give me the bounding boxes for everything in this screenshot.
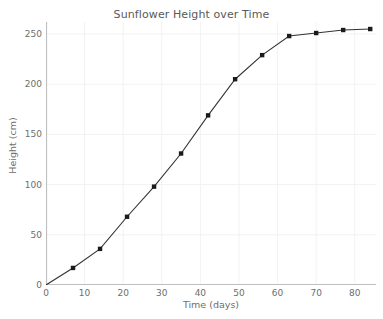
data-point-marker [287, 34, 291, 38]
x-axis-tick-label: 60 [263, 288, 293, 298]
data-point-marker [314, 31, 318, 35]
x-axis-tick-label: 30 [147, 288, 177, 298]
x-axis-tick-label: 40 [185, 288, 215, 298]
x-axis-tick-label: 70 [301, 288, 331, 298]
axis-spines [46, 22, 376, 285]
plot-area [46, 22, 376, 285]
data-point-marker [71, 266, 75, 270]
data-point-marker [206, 113, 210, 117]
x-axis-tick-label: 50 [224, 288, 254, 298]
data-point-marker [233, 77, 237, 81]
data-point-marker [341, 28, 345, 32]
plot-svg [46, 22, 376, 285]
x-axis-tick-label: 80 [340, 288, 370, 298]
x-axis-tick-label: 10 [70, 288, 100, 298]
data-point-marker [125, 215, 129, 219]
y-axis-tick-label: 200 [12, 79, 42, 89]
y-axis-label: Height (cm) [7, 101, 18, 191]
data-point-marker [152, 184, 156, 188]
data-point-marker [368, 27, 372, 31]
y-axis-tick-label: 250 [12, 29, 42, 39]
data-point-marker [260, 53, 264, 57]
x-axis-tick-label: 0 [31, 288, 61, 298]
series-line-sunflower-height [46, 29, 370, 285]
data-point-marker [179, 151, 183, 155]
chart-title: Sunflower Height over Time [0, 8, 383, 21]
grid-lines [46, 22, 376, 285]
chart-figure: Sunflower Height over Time 0501001502002… [0, 0, 383, 319]
data-point-marker [98, 247, 102, 251]
y-axis-tick-label: 50 [12, 230, 42, 240]
x-axis-label: Time (days) [46, 299, 376, 310]
x-axis-tick-label: 20 [108, 288, 138, 298]
series-markers-sunflower-height [71, 27, 373, 270]
